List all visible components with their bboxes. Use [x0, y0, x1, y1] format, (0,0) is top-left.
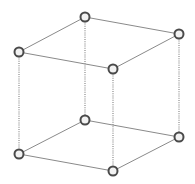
- cube-edge-top-right-to-top-front: [113, 34, 179, 69]
- cube-vertex-bottom-right: [175, 133, 184, 142]
- cube-edge-top-back-to-top-right: [85, 17, 179, 34]
- cube-edge-top-left-to-top-front: [19, 52, 113, 69]
- cube-diagram: [0, 0, 195, 184]
- cube-edge-bottom-left-to-bottom-front: [19, 154, 113, 171]
- cube-vertex-top-front: [109, 65, 118, 74]
- cube-wireframe: [0, 0, 195, 184]
- cube-edge-bottom-back-to-bottom-right: [85, 120, 179, 137]
- cube-edge-bottom-back-to-bottom-left: [19, 120, 85, 154]
- cube-edge-top-back-to-top-left: [19, 17, 85, 52]
- cube-vertex-top-left: [15, 48, 24, 57]
- cube-edges: [19, 17, 179, 171]
- cube-edge-bottom-right-to-bottom-front: [113, 137, 179, 171]
- cube-vertex-bottom-back: [81, 116, 90, 125]
- cube-vertex-bottom-left: [15, 150, 24, 159]
- cube-vertex-bottom-front: [109, 167, 118, 176]
- cube-vertex-top-right: [175, 30, 184, 39]
- cube-vertices: [15, 13, 184, 176]
- cube-vertex-top-back: [81, 13, 90, 22]
